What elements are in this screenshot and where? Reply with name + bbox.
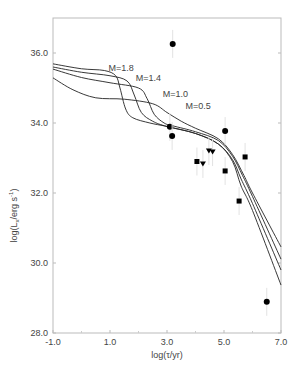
x-axis-label: log(τ/yr) (151, 350, 183, 360)
square-marker (223, 168, 228, 173)
square-marker (243, 154, 248, 159)
y-tick-label: 34.0 (30, 118, 48, 128)
square-marker (194, 159, 199, 164)
x-tick-label: 1.0 (104, 337, 117, 347)
data-points (167, 30, 270, 316)
y-tick-label: 36.0 (30, 48, 48, 58)
triangle-marker (200, 161, 206, 166)
y-tick-label: 30.0 (30, 258, 48, 268)
curve-label: M=1.0 (163, 89, 188, 99)
circle-marker (222, 128, 228, 134)
axis-labels: -1.01.03.05.07.028.030.032.034.036.0log(… (8, 48, 287, 360)
curve-label: M=1.8 (109, 63, 134, 73)
circle-marker (170, 41, 176, 47)
chart: -1.01.03.05.07.028.030.032.034.036.0log(… (0, 0, 302, 374)
curve-label: M=1.4 (136, 73, 161, 83)
triangle-marker (210, 150, 216, 155)
x-tick-label: 3.0 (161, 337, 174, 347)
axes-frame (53, 18, 281, 333)
plot-frame (53, 18, 281, 333)
y-axis-label: log(Lx/erg s-1) (8, 189, 20, 243)
x-tick-label: 5.0 (218, 337, 231, 347)
square-marker (237, 199, 242, 204)
curve-label: M=0.5 (186, 101, 211, 111)
circle-marker (264, 299, 270, 305)
curve-m-0-5 (53, 78, 281, 247)
x-tick-label: 7.0 (275, 337, 288, 347)
y-tick-label: 28.0 (30, 328, 48, 338)
circle-marker (169, 133, 175, 139)
y-tick-label: 32.0 (30, 188, 48, 198)
x-tick-label: -1.0 (45, 337, 61, 347)
